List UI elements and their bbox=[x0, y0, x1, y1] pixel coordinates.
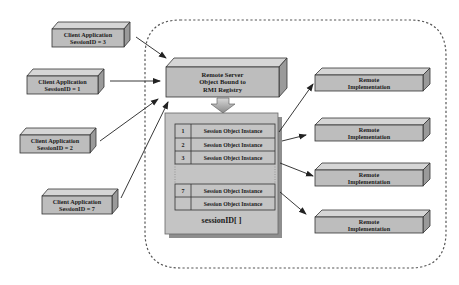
client-app-title: Client Application bbox=[38, 78, 86, 85]
server-label: Remote Server Object Bound to RMI Regist… bbox=[166, 67, 279, 97]
client-label-1: Client Application SessionID = 1 bbox=[27, 76, 98, 94]
client-session-id: SessionID = 1 bbox=[45, 85, 81, 92]
session-index: 2 bbox=[175, 138, 191, 151]
impl-label-3: Remote Implementation bbox=[315, 170, 423, 186]
impl-line-2: Implementation bbox=[348, 133, 390, 140]
impl-line-1: Remote bbox=[359, 218, 379, 225]
impl-label-1: Remote Implementation bbox=[315, 75, 423, 91]
client-app-title: Client Application bbox=[53, 198, 101, 205]
client-app-title: Client Application bbox=[64, 31, 112, 38]
client-label-3: Client Application SessionID = 3 bbox=[52, 29, 124, 47]
session-index bbox=[175, 197, 191, 210]
client-session-id: SessionID = 2 bbox=[37, 144, 73, 151]
impl-line-1: Remote bbox=[359, 76, 379, 83]
impl-line-2: Implementation bbox=[348, 225, 390, 232]
server-line-1: Remote Server bbox=[202, 71, 244, 79]
session-index: 3 bbox=[175, 151, 191, 164]
server-line-3: RMI Registry bbox=[203, 86, 242, 94]
client-app-title: Client Application bbox=[31, 137, 79, 144]
impl-line-1: Remote bbox=[359, 126, 379, 133]
session-array-title: sessionID[ ] bbox=[165, 216, 278, 225]
client-label-2: Client Application SessionID = 2 bbox=[20, 135, 90, 153]
session-index: 1 bbox=[175, 124, 191, 138]
client-session-id: SessionID = 3 bbox=[70, 38, 106, 45]
session-object-label: Session Object Instance bbox=[191, 197, 275, 210]
down-arrow bbox=[211, 98, 235, 113]
client-label-7: Client Application SessionID = 7 bbox=[42, 196, 112, 214]
rmi-session-diagram: Client Application SessionID = 3 Client … bbox=[0, 0, 459, 285]
session-object-label: Session Object Instance bbox=[191, 184, 275, 197]
session-object-label: Session Object Instance bbox=[191, 124, 275, 138]
impl-label-2: Remote Implementation bbox=[315, 125, 423, 141]
session-index: 7 bbox=[175, 184, 191, 197]
client-session-id: SessionID = 7 bbox=[59, 205, 95, 212]
impl-label-4: Remote Implementation bbox=[315, 217, 423, 233]
impl-line-2: Implementation bbox=[348, 178, 390, 185]
impl-line-1: Remote bbox=[359, 171, 379, 178]
session-object-label: Session Object Instance bbox=[191, 138, 275, 151]
impl-line-2: Implementation bbox=[348, 83, 390, 90]
session-object-label: Session Object Instance bbox=[191, 151, 275, 164]
server-line-2: Object Bound to bbox=[199, 78, 246, 86]
